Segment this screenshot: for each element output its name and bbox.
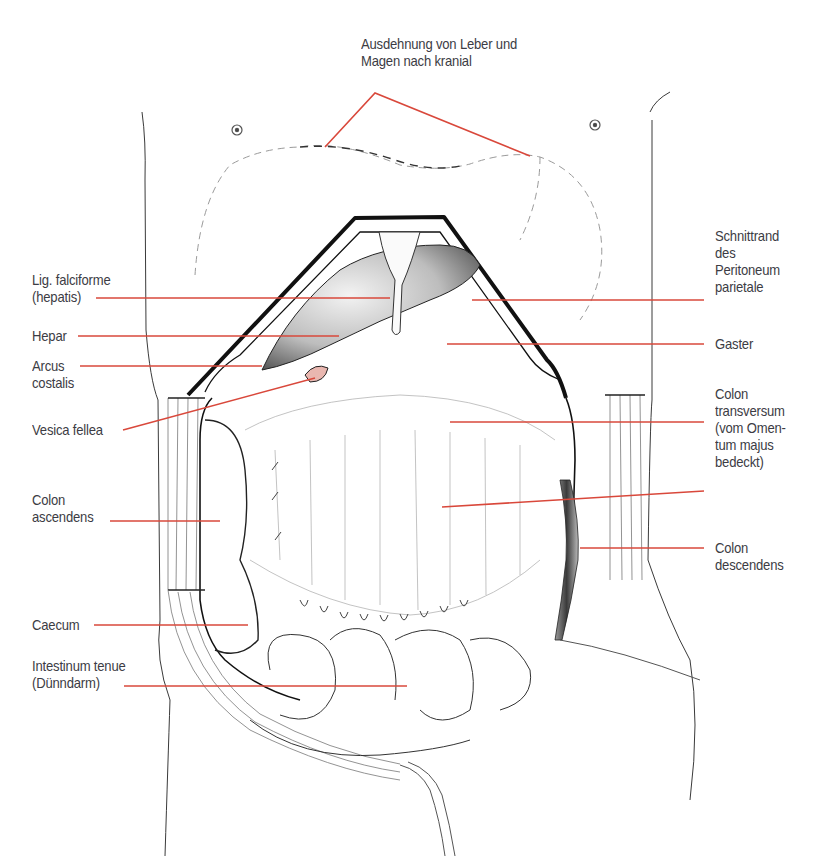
- label-line: (Dünndarm): [32, 675, 126, 692]
- anatomy-figure: Ausdehnung von Leber und Magen nach kran…: [0, 0, 839, 856]
- label-line: descendens: [715, 557, 784, 574]
- abdomen-illustration: [0, 0, 839, 856]
- label-line: Lig. falciforme: [32, 272, 111, 289]
- label-line: Magen nach kranial: [361, 53, 517, 70]
- label-line: Hepar: [32, 328, 67, 345]
- label-line: Vesica fellea: [32, 422, 103, 439]
- label-line: costalis: [32, 375, 74, 392]
- label-line: transversum: [715, 403, 786, 420]
- small-intestine-loops: [250, 629, 531, 756]
- label-line: ascendens: [32, 509, 94, 526]
- label-schnittrand: Schnittrand des Peritoneum parietale: [715, 228, 780, 296]
- label-line: Intestinum tenue: [32, 658, 126, 675]
- label-line: bedeckt): [715, 454, 786, 471]
- label-vesica-fellea: Vesica fellea: [32, 422, 103, 439]
- label-colon-descendens: Colon descendens: [715, 540, 784, 574]
- liver-shape: [262, 245, 480, 370]
- label-line: tum majus: [715, 437, 786, 454]
- lower-abdomen: [400, 640, 700, 856]
- label-cranial-extension: Ausdehnung von Leber und Magen nach kran…: [361, 36, 517, 70]
- label-line: (hepatis): [32, 289, 111, 306]
- label-line: des: [715, 245, 780, 262]
- label-hepar: Hepar: [32, 328, 67, 345]
- colon-ascendens-caecum: [205, 420, 258, 653]
- label-line: Colon: [715, 386, 786, 403]
- label-line: Schnittrand: [715, 228, 780, 245]
- label-line: Arcus: [32, 358, 74, 375]
- label-colon-ascendens: Colon ascendens: [32, 492, 94, 526]
- label-line: Colon: [32, 492, 94, 509]
- label-line: Ausdehnung von Leber und: [361, 36, 517, 53]
- label-line: Colon: [715, 540, 784, 557]
- torso-outline: [142, 92, 695, 856]
- label-lig-falciforme: Lig. falciforme (hepatis): [32, 272, 111, 306]
- dashed-upper-edge: [300, 146, 460, 168]
- label-line: Caecum: [32, 617, 80, 634]
- label-caecum: Caecum: [32, 617, 80, 634]
- label-line: parietale: [715, 279, 780, 296]
- colon-descendens-shape: [555, 480, 578, 640]
- omentum-fringe: [272, 462, 468, 621]
- label-line: Gaster: [715, 336, 753, 353]
- nipple-marks: [232, 120, 600, 135]
- label-gaster: Gaster: [715, 336, 753, 353]
- label-line: (vom Omen-: [715, 420, 786, 437]
- omentum-majus: [245, 395, 555, 615]
- label-arcus-costalis: Arcus costalis: [32, 358, 74, 392]
- label-colon-transversum: Colon transversum (vom Omen- tum majus b…: [715, 386, 786, 471]
- label-line: Peritoneum: [715, 262, 780, 279]
- leader-lines: [78, 93, 704, 686]
- leader-top: [325, 93, 530, 156]
- label-intestinum-tenue: Intestinum tenue (Dünndarm): [32, 658, 126, 692]
